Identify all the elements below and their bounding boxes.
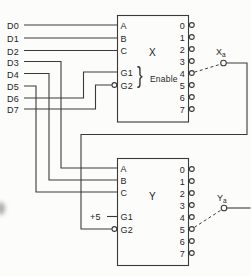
selector-terminals <box>221 60 227 211</box>
y-output-3: 3 <box>176 201 185 211</box>
y-output-2: 2 <box>176 189 185 199</box>
wires-d3-d5 <box>24 62 117 193</box>
x-terminal-sub: a <box>222 51 226 58</box>
x-pin-g2: G2 <box>121 81 133 91</box>
x-pin-a: A <box>121 21 127 31</box>
x-pin-c: C <box>121 46 128 56</box>
data-input-label-d6: D6 <box>7 94 19 104</box>
x-output-6: 6 <box>176 93 185 103</box>
decoder-y-title: Y <box>149 192 156 202</box>
y-pin-g1: G1 <box>121 212 133 222</box>
enable-brace: } <box>137 62 143 88</box>
x-output-5: 5 <box>176 81 185 91</box>
y-wiper-dashed <box>194 210 221 227</box>
y-pin-c: C <box>121 188 128 198</box>
x-output-4: 4 <box>176 69 185 79</box>
data-input-label-d2: D2 <box>7 47 19 57</box>
y-terminal-label: Ya <box>217 193 227 206</box>
x-pin-g1: G1 <box>121 68 133 78</box>
y-output-6: 6 <box>176 237 185 247</box>
y-output-0: 0 <box>176 165 185 175</box>
x-terminal-node <box>221 60 227 66</box>
g2-input-bubbles <box>112 83 117 232</box>
x-output-bubbles <box>189 23 194 112</box>
data-input-label-d0: D0 <box>7 21 19 31</box>
y-pin-g2: G2 <box>121 225 133 235</box>
plus5-supply-label: +5 <box>90 212 101 222</box>
decoder-x-title: X <box>149 48 156 58</box>
y-output-1: 1 <box>176 177 185 187</box>
x-terminal-label: Xa <box>216 47 226 60</box>
x-output-0: 0 <box>176 21 185 31</box>
x-output-3: 3 <box>176 57 185 67</box>
y-output-5: 5 <box>176 225 185 235</box>
enable-label: Enable <box>150 74 178 84</box>
y-output-bubbles <box>189 167 194 256</box>
x-wiper-dashed <box>194 64 220 72</box>
data-input-label-d5: D5 <box>7 82 19 92</box>
y-output-4: 4 <box>176 213 185 223</box>
wires-d6-d7 <box>24 72 117 109</box>
y-pin-b: B <box>121 176 127 186</box>
y-pin-a: A <box>121 164 127 174</box>
x-output-7: 7 <box>176 105 185 115</box>
data-input-label-d7: D7 <box>7 105 19 115</box>
logic-schematic: D0 D1 D2 D3 D4 D5 D6 D7 A B C G1 G2 X } … <box>0 0 251 276</box>
y-terminal-sub: a <box>223 197 227 204</box>
x-output-1: 1 <box>176 33 185 43</box>
data-input-label-d3: D3 <box>7 58 19 68</box>
data-input-label-d1: D1 <box>7 34 19 44</box>
x-pin-b: B <box>121 34 127 44</box>
y-terminal-node <box>221 205 227 211</box>
x-output-2: 2 <box>176 45 185 55</box>
data-input-label-d4: D4 <box>7 70 19 80</box>
y-output-7: 7 <box>176 249 185 259</box>
wires-d0-d2 <box>24 25 117 51</box>
